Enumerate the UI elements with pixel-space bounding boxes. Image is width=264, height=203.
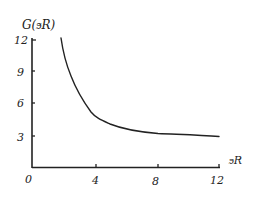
y-label-12: 12 — [14, 34, 28, 47]
x-label-origin: 0 — [25, 173, 32, 186]
chart: G(ϧR) 12 9 6 3 0 4 8 12 ϧR — [0, 0, 264, 203]
x-axis-label: ϧR — [228, 154, 242, 167]
x-label-12: 12 — [210, 174, 224, 187]
y-label-6: 6 — [17, 97, 24, 110]
x-label-4: 4 — [91, 174, 99, 187]
y-axis-label: G(ϧR) — [22, 18, 56, 32]
y-label-9: 9 — [17, 66, 24, 79]
curve-g — [61, 38, 219, 137]
y-label-3: 3 — [17, 131, 24, 144]
x-label-8: 8 — [152, 175, 159, 188]
